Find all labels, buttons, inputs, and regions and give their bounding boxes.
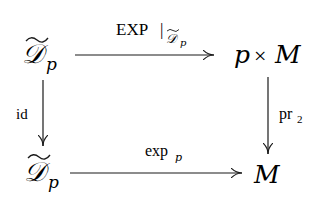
commutative-diagram: 𝒟 p EXP | 𝒟 p p × M id pr 2 𝒟 p exp p M [0,0,327,197]
subscript-p: p [48,172,59,192]
subscript-p: p [46,54,57,74]
times-symbol: × [254,43,266,68]
arrow-bottom-label: exp p [145,142,182,164]
calligraphic-d: 𝒟 [22,38,48,69]
arrow-left-label: id [16,106,28,122]
node-top-right: p × M [234,40,302,69]
node-bottom-right: M [253,160,281,189]
exp-label: exp [145,142,168,160]
node-top-left: 𝒟 p [22,38,57,74]
node-bottom-left: 𝒟 p [24,155,59,192]
arrow-right-label: pr 2 [279,105,303,125]
calligraphic-d: 𝒟 [24,156,50,187]
pr-label: pr [279,105,293,123]
exp-label: EXP [116,20,148,39]
pr-subscript-2: 2 [297,113,303,125]
arrow-top-label: EXP | 𝒟 p [116,20,187,48]
restriction-bar: | [160,20,163,39]
restriction-d: 𝒟 [166,31,179,46]
restriction-sub-p: p [180,37,187,48]
exp-subscript-p: p [175,151,182,164]
p-symbol: p [234,40,250,69]
m-symbol: M [274,40,302,69]
